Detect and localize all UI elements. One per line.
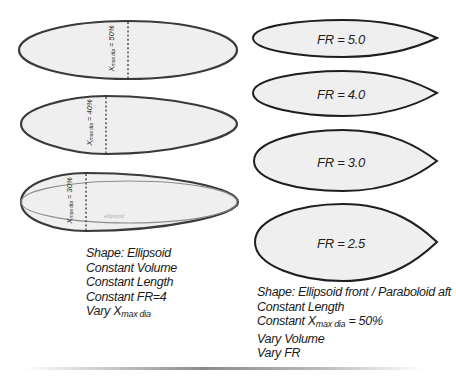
fr-label-2-5: FR = 2.5 [317, 236, 365, 251]
label-var: X [65, 219, 74, 224]
fr-label-3: FR = 3.0 [317, 155, 365, 170]
caption-vary-volume: Vary Volume [257, 332, 451, 347]
label-var: X [85, 141, 94, 146]
caption-volume: Constant Volume [86, 261, 177, 276]
caption-vary-xmax: Vary Xmax dia [86, 304, 177, 322]
right-caption: Shape: Ellipsoid front / Paraboloid aft … [257, 285, 451, 361]
caption-length: Constant Length [257, 300, 451, 315]
ellipse-xmax-50 [19, 21, 237, 79]
caption-sub: max dia [121, 309, 150, 319]
caption-shape: Shape: Ellipsoid [86, 246, 177, 261]
label-value: = 50% [107, 25, 116, 46]
ellipse-xmax-40 [21, 96, 237, 154]
xmax-label-40: Xmax dia = 40% [85, 99, 94, 145]
caption-sub: max dia [316, 319, 345, 329]
label-var: X [107, 67, 116, 72]
caption-shape: Shape: Ellipsoid front / Paraboloid aft [257, 285, 451, 300]
xmax-label-30: Xmax dia = 30% [65, 177, 74, 223]
caption-prefix: Constant X [257, 314, 316, 328]
caption-length: Constant Length [86, 275, 177, 290]
caption-suffix: = 50% [345, 314, 382, 328]
xmax-label-50: Xmax dia = 50% [107, 25, 116, 71]
caption-prefix: Vary X [86, 304, 121, 318]
label-value: = 30% [65, 177, 74, 198]
ellipse-xmax-30 [21, 173, 238, 231]
fr-label-5: FR = 5.0 [317, 32, 365, 47]
label-value: = 40% [85, 99, 94, 120]
label-sub: max dia [68, 201, 74, 219]
caption-vary-fr: Vary FR [257, 346, 451, 361]
caption-xmax: Constant Xmax dia = 50% [257, 314, 451, 332]
fr-label-4: FR = 4.0 [317, 87, 365, 102]
label-sub: max dia [88, 123, 94, 141]
reference-ellipse-label: ellipsoid [104, 213, 124, 219]
left-caption: Shape: Ellipsoid Constant Volume Constan… [86, 246, 177, 322]
caption-fr: Constant FR=4 [86, 290, 177, 305]
bottom-divider [24, 367, 424, 370]
label-sub: max dia [110, 49, 116, 67]
